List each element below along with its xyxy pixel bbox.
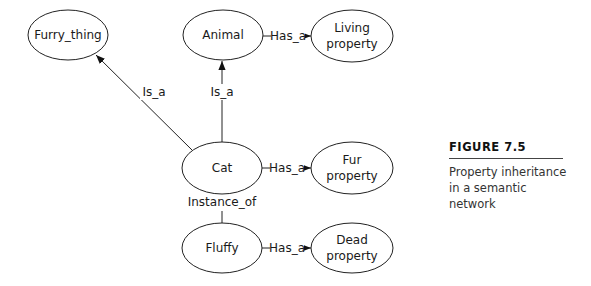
node-fluffy: Fluffy [182, 223, 262, 273]
edge-label: Is_a [142, 85, 165, 99]
svg-text:Fur: Fur [343, 153, 362, 167]
svg-text:Furry_thing: Furry_thing [34, 28, 101, 42]
node-animal: Animal [183, 10, 263, 60]
figure-label: FIGURE 7.5 [449, 140, 563, 159]
caption-line-1: Property inheritance [449, 164, 569, 180]
node-living-property: Living property [311, 10, 393, 62]
node-fur-property: Fur property [311, 142, 393, 194]
svg-text:Fluffy: Fluffy [205, 241, 238, 255]
edge-label: Is_a [210, 85, 233, 99]
node-furry-thing: Furry_thing [28, 10, 108, 60]
svg-text:Living: Living [334, 21, 370, 35]
figure-caption-text: Property inheritance in a semantic netwo… [449, 164, 569, 212]
edge-label: Has_a [269, 241, 305, 255]
svg-text:property: property [326, 37, 377, 51]
figure-caption: FIGURE 7.5 Property inheritance in a sem… [449, 140, 569, 212]
node-dead-property: Dead property [311, 223, 393, 273]
svg-text:Animal: Animal [202, 28, 244, 42]
edge-cat-hasa-fur-property: Has_a [262, 160, 311, 176]
edge-label: Instance_of [188, 195, 257, 209]
edge-fluffy-instance-of-cat: Instance_of [188, 195, 257, 223]
edge-cat-isa-furry-thing: Is_a [96, 55, 192, 150]
edge-label: Has_a [269, 161, 305, 175]
edge-cat-isa-animal: Is_a [208, 61, 236, 142]
svg-text:property: property [326, 169, 377, 183]
svg-text:Dead: Dead [336, 233, 368, 247]
node-cat: Cat [182, 142, 262, 194]
caption-line-2: in a semantic network [449, 180, 569, 212]
edge-label: Has_a [270, 29, 306, 43]
svg-text:property: property [326, 249, 377, 263]
edge-animal-hasa-living-property: Has_a [263, 28, 311, 44]
svg-text:Cat: Cat [212, 161, 233, 175]
edge-fluffy-hasa-dead-property: Has_a [262, 240, 311, 256]
